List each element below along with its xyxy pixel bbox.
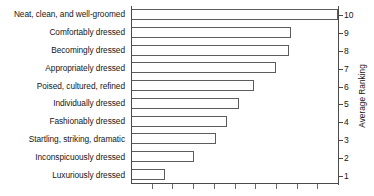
category-label: Appropriately dressed: [45, 64, 125, 73]
category-axis: Neat, clean, and well-groomed Comfortabl…: [0, 6, 128, 184]
bar: [132, 9, 338, 20]
x-axis-tick: [255, 184, 256, 189]
bar: [132, 133, 216, 144]
value-axis-tick-label: 5: [344, 100, 349, 109]
value-axis-tick-label: 1: [344, 172, 349, 181]
category-label: Poised, cultured, refined: [37, 82, 125, 91]
x-axis-tick: [317, 184, 318, 189]
category-row: Comfortably dressed: [0, 24, 128, 42]
value-axis-tick: [338, 176, 343, 177]
value-axis-tick-label: 6: [344, 83, 349, 92]
bar-slot: [132, 77, 338, 95]
bar-slot: [132, 95, 338, 113]
bar: [132, 169, 165, 180]
category-row: Luxuriously dressed: [0, 166, 128, 184]
bar: [132, 62, 276, 73]
category-label: Startling, striking, dramatic: [29, 135, 125, 144]
x-axis-tick: [235, 184, 236, 189]
bar-slot: [132, 165, 338, 183]
value-axis-tick-label: 9: [344, 29, 349, 38]
category-row: Appropriately dressed: [0, 59, 128, 77]
value-axis-tick-label: 10: [344, 11, 353, 20]
bar-slot: [132, 112, 338, 130]
value-axis-tick: [338, 158, 343, 159]
value-axis-tick: [338, 33, 343, 34]
x-axis-tick: [214, 184, 215, 189]
x-axis-tick: [297, 184, 298, 189]
x-axis-ticks: [131, 184, 338, 191]
value-axis-tick: [338, 51, 343, 52]
bar-slot: [132, 59, 338, 77]
value-axis-tick-label: 8: [344, 47, 349, 56]
category-row: Neat, clean, and well-groomed: [0, 6, 128, 24]
x-axis-tick: [172, 184, 173, 189]
bar: [132, 45, 289, 56]
bar: [132, 116, 227, 127]
category-label: Fashionably dressed: [49, 117, 125, 126]
bar-slot: [132, 24, 338, 42]
value-axis-tick: [338, 15, 343, 16]
value-axis-tick: [338, 87, 343, 88]
value-axis: 10987654321: [338, 6, 346, 185]
x-axis-tick: [152, 184, 153, 189]
bar: [132, 98, 239, 109]
category-row: Startling, striking, dramatic: [0, 131, 128, 149]
bar-chart-figure: Neat, clean, and well-groomed Comfortabl…: [0, 0, 374, 196]
bar: [132, 151, 194, 162]
value-axis-tick: [338, 122, 343, 123]
value-axis-title-label: Average Ranking: [357, 64, 367, 128]
category-label: Becomingly dressed: [51, 46, 125, 55]
category-row: Fashionably dressed: [0, 113, 128, 131]
bar-series: [132, 6, 338, 183]
category-label: Inconspicuously dressed: [35, 153, 125, 162]
value-axis-title: Average Ranking: [357, 6, 367, 185]
value-axis-tick: [338, 140, 343, 141]
category-label: Neat, clean, and well-groomed: [14, 10, 125, 19]
category-label: Luxuriously dressed: [52, 171, 125, 180]
category-label: Individually dressed: [53, 99, 125, 108]
value-axis-tick-label: 4: [344, 118, 349, 127]
x-axis-tick: [276, 184, 277, 189]
value-axis-tick-label: 7: [344, 65, 349, 74]
bar: [132, 80, 254, 91]
category-row: Individually dressed: [0, 95, 128, 113]
bar-slot: [132, 41, 338, 59]
plot-area: [131, 6, 338, 184]
bar-slot: [132, 6, 338, 24]
category-row: Poised, cultured, refined: [0, 77, 128, 95]
bar: [132, 27, 291, 38]
x-axis-tick: [193, 184, 194, 189]
bar-slot: [132, 130, 338, 148]
category-row: Becomingly dressed: [0, 42, 128, 60]
bar-slot: [132, 148, 338, 166]
value-axis-tick: [338, 69, 343, 70]
value-axis-tick-label: 2: [344, 154, 349, 163]
category-label: Comfortably dressed: [49, 28, 125, 37]
category-row: Inconspicuously dressed: [0, 148, 128, 166]
value-axis-tick: [338, 104, 343, 105]
value-axis-tick-label: 3: [344, 136, 349, 145]
